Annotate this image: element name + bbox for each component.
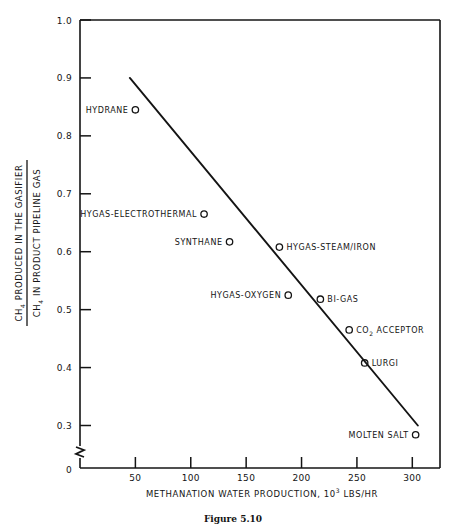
x-tick-label: 150	[237, 473, 255, 483]
x-axis-label-tail: LBS/HR	[340, 489, 378, 499]
x-tick-label: 100	[182, 473, 200, 483]
data-point-label: MOLTEN SALT	[349, 431, 409, 440]
data-point: HYGAS-ELECTROTHERMAL	[80, 210, 207, 219]
y-tick-label: 0.7	[57, 189, 72, 199]
label-lead: CO	[356, 326, 369, 335]
x-axis-label-main: METHANATION WATER PRODUCTION, 10	[146, 489, 336, 499]
figure-caption: Figure 5.10	[204, 514, 262, 524]
x-tick-label: 250	[348, 473, 366, 483]
x-tick-label: 200	[292, 473, 310, 483]
y-den-lead: CH	[32, 304, 42, 318]
y-den-tail: IN PRODUCT PIPELINE GAS	[32, 169, 42, 300]
data-point: MOLTEN SALT	[349, 431, 419, 440]
origin-tick-label: 0	[66, 465, 72, 475]
y-tick-label: 0.8	[57, 131, 72, 141]
figure-container: 0.30.40.50.60.70.80.91.0 501001502002503…	[0, 0, 466, 526]
x-tick-label: 300	[403, 473, 421, 483]
data-point: HYGAS-STEAM/IRON	[276, 243, 376, 252]
data-point-label: HYDRANE	[86, 106, 129, 115]
y-tick-label: 0.5	[57, 305, 72, 315]
data-point: HYGAS-OXYGEN	[210, 291, 291, 300]
x-axis-label: METHANATION WATER PRODUCTION, 103 LBS/HR	[146, 487, 378, 499]
data-point-label: HYGAS-STEAM/IRON	[286, 243, 376, 252]
data-point-label: HYGAS-ELECTROTHERMAL	[80, 210, 197, 219]
data-point-label: LURGI	[372, 359, 399, 368]
y-tick-label: 0.4	[57, 363, 72, 373]
y-tick-label: 1.0	[57, 16, 72, 26]
y-tick-label: 0.3	[57, 421, 72, 431]
y-tick-label: 0.9	[57, 73, 72, 83]
y-tick-label: 0.6	[57, 247, 72, 257]
label-tail: ACCEPTOR	[374, 326, 425, 335]
data-point-label: SYNTHANE	[175, 238, 223, 247]
x-tick-label: 50	[129, 473, 141, 483]
y-num-tail: PRODUCED IN THE GASIFIER	[14, 165, 24, 304]
data-point-label: HYGAS-OXYGEN	[210, 291, 281, 300]
methanation-water-production-scatter-chart: 0.30.40.50.60.70.80.91.0 501001502002503…	[0, 0, 466, 526]
data-point-label: BI-GAS	[327, 295, 358, 304]
x-axis-label-text: METHANATION WATER PRODUCTION, 103 LBS/HR	[146, 487, 378, 499]
y-num-lead: CH	[14, 308, 24, 322]
